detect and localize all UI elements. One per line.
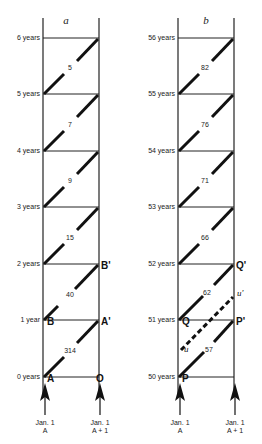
age-label: 2 years: [17, 260, 40, 268]
arrow-up-icon: [95, 383, 105, 415]
age-label: 56 years: [148, 34, 175, 42]
axis-label: Jan. 1: [225, 419, 244, 426]
point-O: O: [96, 373, 104, 384]
cohort-value: 9: [68, 177, 72, 184]
cohort-value: 57: [205, 346, 213, 353]
point-B-prime: B': [101, 260, 111, 271]
cohort-value: 62: [203, 289, 211, 296]
cohort-value: 76: [201, 121, 209, 128]
point-P-prime: P': [236, 316, 245, 327]
cohort-value: 66: [201, 234, 209, 241]
arrow-up-icon: [40, 383, 50, 415]
panel-b-title: b: [203, 14, 209, 26]
lexis-diagram: a 5 7 9 15 40 314 6 years 5 years 4 year…: [0, 0, 262, 444]
axis-label: A: [178, 427, 183, 434]
age-label: 6 years: [17, 34, 40, 42]
axis-label: Jan. 1: [35, 419, 54, 426]
cohort-value: 314: [64, 347, 76, 354]
point-P: P: [182, 373, 189, 384]
age-label: 52 years: [148, 260, 175, 268]
cohort-value: 71: [201, 177, 209, 184]
age-label: 3 years: [17, 203, 40, 211]
arrow-up-icon: [230, 383, 240, 415]
axis-label: Jan. 1: [170, 419, 189, 426]
age-label: 55 years: [148, 90, 175, 98]
cohort-value: 5: [68, 64, 72, 71]
age-label: 5 years: [17, 90, 40, 98]
point-B: B: [47, 316, 54, 327]
age-label: 1 year: [21, 316, 41, 324]
cohort-value: 15: [66, 234, 74, 241]
cohort-value: 40: [66, 291, 74, 298]
point-u-prime: u': [237, 288, 245, 298]
age-label: 50 years: [148, 373, 175, 381]
axis-label: A: [43, 427, 48, 434]
age-label: 0 years: [17, 373, 40, 381]
panel-a: a 5 7 9 15 40 314 6 years 5 years 4 year…: [17, 14, 111, 434]
age-label: 51 years: [148, 316, 175, 324]
axis-label: A + 1: [92, 427, 108, 434]
age-label: 4 years: [17, 147, 40, 155]
point-u: u: [184, 344, 189, 354]
point-A-prime: A': [101, 316, 111, 327]
axis-label: Jan. 1: [90, 419, 109, 426]
axis-label: A + 1: [227, 427, 243, 434]
age-label: 53 years: [148, 203, 175, 211]
cohort-value: 7: [68, 121, 72, 128]
arrow-up-icon: [175, 383, 185, 415]
point-Q: Q: [182, 316, 190, 327]
panel-b: b 82 76 71 66 62 57 56 years 55 years 54…: [148, 14, 246, 434]
point-Q-prime: Q': [236, 260, 246, 271]
panel-a-title: a: [63, 14, 69, 26]
point-A: A: [47, 373, 54, 384]
cohort-value: 82: [201, 64, 209, 71]
age-label: 54 years: [148, 147, 175, 155]
